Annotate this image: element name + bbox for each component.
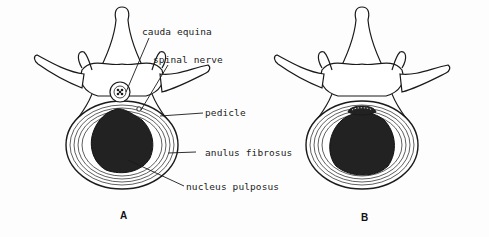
diagram-artwork [0, 0, 489, 237]
label-anulus-fibrosus: anulus fibrosus [205, 147, 292, 158]
label-spinal-nerve: spinal nerve [153, 54, 223, 65]
label-cauda-equina: cauda equina [142, 26, 212, 37]
label-nucleus-pulposus: nucleus pulposus [186, 181, 279, 192]
panel-label-b: B [361, 212, 368, 223]
panel-label-a: A [120, 210, 127, 221]
vertebra-b [274, 7, 449, 189]
label-pedicle: pedicle [205, 107, 246, 118]
vertebra-diagram: cauda equina spinal nerve pedicle anulus… [0, 0, 489, 237]
